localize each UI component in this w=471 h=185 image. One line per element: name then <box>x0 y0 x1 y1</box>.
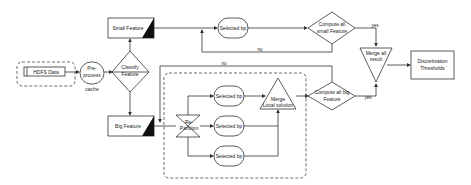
svg-text:Selected bp: Selected bp <box>220 25 247 31</box>
svg-text:Small Feature: Small Feature <box>112 25 143 31</box>
compute-big-feature-node: Compute all big Feature <box>308 82 355 110</box>
yes-label-big: yes <box>364 95 372 100</box>
svg-text:Local solution: Local solution <box>263 102 294 108</box>
svg-text:Partition: Partition <box>180 125 199 131</box>
svg-text:Selected bp: Selected bp <box>216 93 243 99</box>
svg-text:small Feature: small Feature <box>317 28 348 34</box>
svg-text:Selected bp: Selected bp <box>216 153 243 159</box>
hdfs-data-label: HDFS Data <box>33 69 59 75</box>
big-feature-node: Big Feature <box>108 116 154 136</box>
svg-text:Compute all big: Compute all big <box>315 89 350 95</box>
selected-bp-2-node: Selected bp <box>214 116 244 136</box>
hdfs-group: HDFS Data <box>17 62 75 86</box>
svg-text:Classify: Classify <box>121 64 139 70</box>
merge-local-solution-node: Merge Local solution <box>260 78 296 109</box>
svg-text:Feature: Feature <box>121 71 138 77</box>
svg-text:Selected bp: Selected bp <box>216 123 243 129</box>
preprocess-node: Pre- process cache <box>80 62 104 92</box>
svg-text:Discretization: Discretization <box>417 58 447 64</box>
repartition-node: Re- Partition <box>176 115 200 137</box>
selected-bp-top-node: Selected bp <box>218 18 248 38</box>
svg-text:Big Feature: Big Feature <box>115 123 141 129</box>
classify-feature-node: Classify Feature <box>112 51 149 92</box>
no-label-big: no <box>221 61 227 66</box>
selected-bp-3-node: Selected bp <box>214 146 244 166</box>
yes-label-small: yes <box>371 23 379 28</box>
small-feature-node: Small Feature <box>108 18 154 38</box>
no-label-small: no <box>257 47 263 52</box>
svg-text:process: process <box>83 72 101 78</box>
compute-small-feature-node: Compute all small Feature <box>308 12 355 44</box>
discretization-thresholds-node: Discretization Thresholds <box>411 51 454 79</box>
cache-label: cache <box>85 86 99 92</box>
svg-text:Compute all: Compute all <box>319 21 346 27</box>
svg-text:Feature: Feature <box>323 96 340 102</box>
svg-text:result: result <box>370 56 383 62</box>
flowchart: HDFS Data Pre- process cache Classify Fe… <box>0 0 471 185</box>
selected-bp-1-node: Selected bp <box>214 86 244 106</box>
svg-text:Thresholds: Thresholds <box>420 65 445 71</box>
svg-text:Pre-: Pre- <box>87 65 97 71</box>
